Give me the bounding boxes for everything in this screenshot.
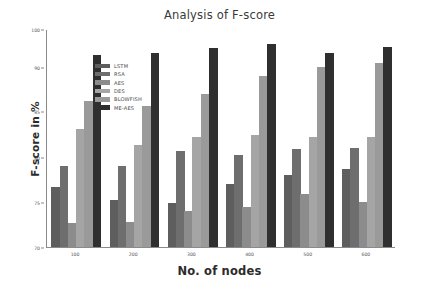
chart-legend: LSTMRSAAESDESBLOWFISHME-AES	[95, 61, 167, 112]
y-tick-label: 80	[34, 155, 40, 160]
y-tick-mark	[41, 157, 44, 158]
legend-swatch-icon	[95, 64, 110, 69]
y-tick-label: 70	[34, 246, 40, 251]
legend-item-aes[interactable]: AES	[95, 79, 167, 87]
legend-swatch-icon	[95, 89, 110, 94]
x-tick-label: 600	[362, 252, 371, 257]
legend-item-des[interactable]: DES	[95, 87, 167, 95]
x-tick-label: 400	[245, 252, 254, 257]
legend-swatch-icon	[95, 72, 110, 77]
y-tick-label: 85	[34, 110, 40, 115]
plot-area: LSTMRSAAESDESBLOWFISHME-AES	[46, 30, 395, 248]
bar-group	[168, 30, 217, 247]
bar-me-aes-400	[267, 44, 276, 248]
legend-swatch-icon	[95, 105, 110, 110]
legend-label: AES	[114, 80, 124, 86]
y-tick-label: 100	[31, 28, 40, 33]
bar-group	[51, 30, 100, 247]
y-tick-mark	[41, 202, 44, 203]
y-tick-mark	[41, 30, 44, 31]
x-tick-label: 500	[303, 252, 312, 257]
legend-swatch-icon	[95, 97, 110, 102]
legend-item-lstm[interactable]: LSTM	[95, 62, 167, 70]
legend-label: ME-AES	[114, 105, 134, 111]
bar-me-aes-600	[383, 47, 392, 247]
y-tick-label: 75	[34, 200, 40, 205]
x-axis-tick-labels: 100200300400500600	[46, 249, 395, 263]
y-tick-mark	[41, 112, 44, 113]
x-axis-label: No. of nodes	[0, 264, 439, 278]
legend-item-me-aes[interactable]: ME-AES	[95, 104, 167, 112]
y-tick-label: 90	[34, 66, 40, 71]
chart-title: Analysis of F-score	[0, 8, 439, 22]
legend-swatch-icon	[95, 80, 110, 85]
legend-label: DES	[114, 88, 125, 94]
legend-label: RSA	[114, 71, 125, 77]
legend-item-blowfish[interactable]: BLOWFISH	[95, 96, 167, 104]
bar-me-aes-500	[325, 53, 334, 247]
x-tick-label: 200	[129, 252, 138, 257]
y-tick-mark	[41, 68, 44, 69]
bar-group	[342, 30, 391, 247]
y-axis-tick-labels: 1009085807570	[0, 30, 44, 248]
x-tick-label: 100	[71, 252, 80, 257]
y-tick-mark	[41, 248, 44, 249]
legend-label: LSTM	[114, 63, 128, 69]
x-tick-label: 300	[187, 252, 196, 257]
bar-me-aes-300	[209, 48, 218, 247]
bar-group	[284, 30, 333, 247]
chart-figure: Analysis of F-score F-score in % 1009085…	[0, 0, 439, 284]
legend-item-rsa[interactable]: RSA	[95, 70, 167, 78]
legend-label: BLOWFISH	[114, 96, 142, 102]
bar-group	[226, 30, 275, 247]
